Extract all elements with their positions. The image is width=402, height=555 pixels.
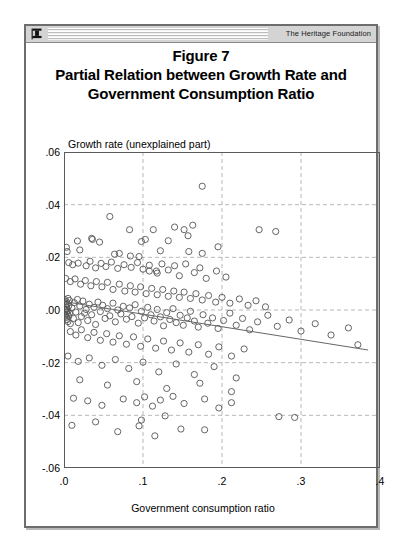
x-tick-label: .0: [52, 476, 76, 486]
plot-frame: [64, 152, 380, 468]
x-axis-title: Government consumption ratio: [26, 502, 380, 514]
y-tick-label: .02: [28, 252, 60, 262]
y-tick-label: -.06: [28, 463, 60, 473]
y-tick-label: -.02: [28, 358, 60, 368]
header-rule-lines: [48, 28, 268, 40]
y-tick-label: -.04: [28, 410, 60, 420]
publication-header-bar: The Heritage Foundation: [26, 26, 376, 43]
x-tick-label: .3: [289, 476, 313, 486]
y-axis-title: Growth rate (unexplained part): [68, 138, 210, 150]
scatter-chart: Growth rate (unexplained part) Governmen…: [26, 122, 380, 528]
y-tick-label: .06: [28, 147, 60, 157]
x-tick-label: .2: [210, 476, 234, 486]
x-tick-label: .4: [368, 476, 392, 486]
figure-title-block: Figure 7 Partial Relation between Growth…: [26, 46, 376, 103]
plot-canvas: [64, 152, 380, 468]
y-tick-label: .04: [28, 200, 60, 210]
figure-page: The Heritage Foundation Figure 7 Partial…: [0, 0, 402, 555]
heritage-torch-icon: [31, 28, 43, 40]
figure-title-line-1: Partial Relation between Growth Rate and: [26, 65, 376, 84]
figure-title-line-2: Government Consumption Ratio: [26, 84, 376, 103]
y-tick-label: .00: [28, 305, 60, 315]
x-tick-label: .1: [131, 476, 155, 486]
publisher-name: The Heritage Foundation: [282, 28, 371, 40]
figure-number: Figure 7: [26, 46, 376, 65]
figure-card: The Heritage Foundation Figure 7 Partial…: [24, 24, 378, 528]
